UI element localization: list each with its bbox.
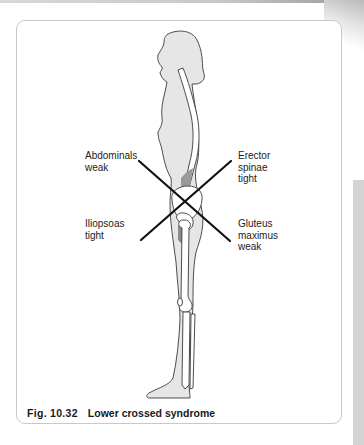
label-abdominals-weak: Abdominals weak [85,150,137,173]
patella [178,298,183,306]
lower-crossed-syndrome-illustration [0,0,364,445]
figure-title: Lower crossed syndrome [88,407,215,419]
tibia-fibula [182,312,195,389]
label-erector-spinae-tight: Erector spinae tight [238,150,270,185]
label-gluteus-maximus-weak: Gluteus maximus weak [238,218,278,253]
label-iliopsoas-tight: Iliopsoas tight [85,218,124,241]
figure-caption: Fig. 10.32Lower crossed syndrome [27,407,215,419]
figure-number: Fig. 10.32 [27,407,78,419]
